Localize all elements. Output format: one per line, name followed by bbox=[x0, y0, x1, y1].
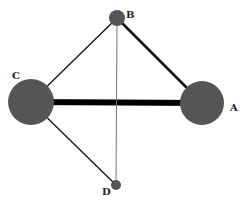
node-label-a: A bbox=[229, 102, 238, 113]
edge-b-d bbox=[116, 18, 117, 185]
node-label-d: D bbox=[102, 186, 111, 197]
node-c bbox=[8, 79, 54, 125]
edges-layer bbox=[31, 18, 202, 185]
node-label-c: C bbox=[12, 70, 20, 81]
network-diagram: ABCD bbox=[0, 0, 243, 205]
node-a bbox=[180, 81, 224, 125]
node-label-b: B bbox=[126, 9, 134, 20]
node-d bbox=[111, 180, 121, 190]
node-b bbox=[109, 10, 125, 26]
graph-canvas: ABCD bbox=[0, 0, 243, 205]
